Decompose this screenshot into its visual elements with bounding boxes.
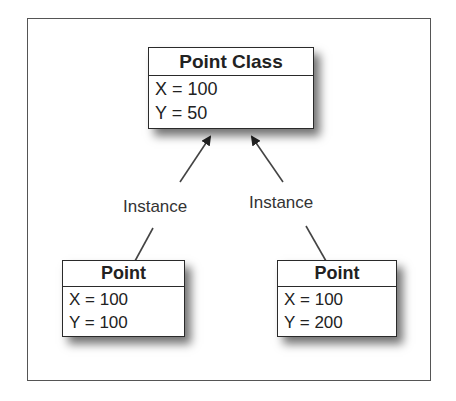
line-left-instance <box>135 228 153 261</box>
instance-2-title: Point <box>278 261 396 287</box>
instance-2-attr-y: Y = 200 <box>278 311 396 334</box>
point-class-box: Point Class X = 100 Y = 50 <box>148 47 314 129</box>
instance-label-left: Instance <box>123 197 187 217</box>
point-instance-box-2: Point X = 100 Y = 200 <box>277 260 397 337</box>
instance-1-attr-y: Y = 100 <box>63 311 184 334</box>
instance-label-right: Instance <box>249 193 313 213</box>
arrow-left-to-class <box>180 137 210 182</box>
class-attr-y: Y = 50 <box>149 101 313 125</box>
instance-1-title: Point <box>63 261 184 287</box>
class-box-title: Point Class <box>149 48 313 76</box>
line-right-instance <box>306 226 326 261</box>
arrow-right-to-class <box>252 137 283 182</box>
instance-1-attr-x: X = 100 <box>63 288 184 311</box>
class-attr-x: X = 100 <box>149 77 313 101</box>
point-instance-box-1: Point X = 100 Y = 100 <box>62 260 185 337</box>
instance-2-attr-x: X = 100 <box>278 288 396 311</box>
